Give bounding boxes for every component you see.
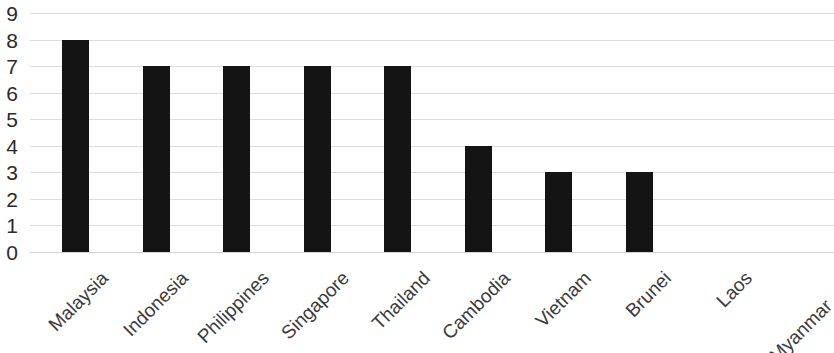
y-axis-tick-label: 0 — [6, 242, 18, 263]
bar — [545, 172, 572, 252]
y-axis-tick-label: 3 — [6, 162, 18, 183]
bar — [626, 172, 653, 252]
bar — [304, 66, 331, 252]
y-axis-tick-label: 5 — [6, 109, 18, 130]
y-axis-tick-label: 9 — [6, 3, 18, 24]
bars — [30, 0, 834, 353]
y-axis-tick-label: 1 — [6, 215, 18, 236]
bar — [384, 66, 411, 252]
y-axis: 0123456789 — [0, 0, 30, 353]
bar — [223, 66, 250, 252]
bar-chart: 0123456789 MalaysiaIndonesiaPhilippinesS… — [0, 0, 834, 353]
plot-area — [30, 0, 834, 353]
y-axis-tick-label: 4 — [6, 135, 18, 156]
y-axis-tick-label: 2 — [6, 188, 18, 209]
y-axis-tick-label: 7 — [6, 56, 18, 77]
bar — [62, 40, 89, 252]
y-axis-tick-label: 6 — [6, 82, 18, 103]
bar — [143, 66, 170, 252]
y-axis-tick-label: 8 — [6, 29, 18, 50]
bar — [465, 146, 492, 252]
